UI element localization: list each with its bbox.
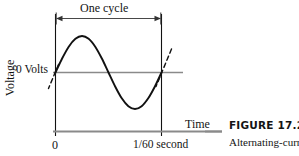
x-tick-label-zero: 0 — [52, 139, 58, 151]
tangent-at-origin-dashed — [49, 65, 59, 89]
figure-caption-title: FIGURE 17.2 — [229, 119, 299, 131]
voltage-axis-label: Voltage — [4, 50, 16, 106]
figure-caption: FIGURE 17.2 Alternating-current — [229, 119, 299, 148]
x-tick-label-period: 1/60 second — [133, 139, 188, 151]
time-axis-label: Time — [185, 118, 210, 130]
tangent-at-period-dashed — [156, 49, 172, 87]
figure-caption-body: Alternating-current — [229, 136, 299, 148]
one-cycle-label: One cycle — [80, 2, 128, 14]
figure-container: One cycle 0 Volts Voltage Time 0 1/60 se… — [0, 0, 299, 156]
zero-volts-label: 0 Volts — [16, 64, 48, 76]
